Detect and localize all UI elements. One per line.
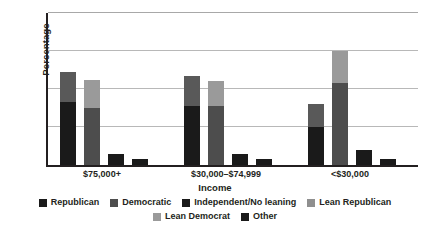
bar-segment-lean [84,80,100,109]
legend-swatch-icon [241,213,249,221]
legend-item[interactable]: Lean Republican [307,198,391,207]
bar [184,76,200,165]
bar [332,51,348,165]
x-group-label: $30,000–$74,999 [191,169,261,179]
legend-swatch-icon [39,199,47,207]
x-axis-baseline [46,165,418,167]
bar [108,154,124,165]
bar [356,150,372,165]
bar-group [172,13,296,165]
bars-layer [48,13,418,165]
bar-segment-base [232,154,248,165]
bar-segment-base [308,127,324,165]
bar-segment-lean [332,51,348,83]
legend-swatch-icon [153,213,161,221]
bar [232,154,248,165]
bar-segment-base [332,83,348,165]
legend-item[interactable]: Independent/No leaning [182,198,296,207]
bar-segment-base [356,150,372,165]
legend-item[interactable]: Republican [39,198,100,207]
bar-segment-lean [184,76,200,106]
bar-segment-lean [308,104,324,127]
bar-segment-base [108,154,124,165]
bar-segment-base [60,102,76,165]
legend-label: Republican [51,198,100,207]
legend-item[interactable]: Lean Democrat [153,212,230,221]
bar [84,80,100,166]
bar-segment-lean [60,72,76,102]
bar-group [48,13,172,165]
legend-item[interactable]: Democratic [110,198,171,207]
income-party-affiliation-chart: Percentage 020406080 $75,000+$30,000–$74… [0,0,430,247]
bar [308,104,324,165]
bar-group [296,13,420,165]
legend-row-1: RepublicanDemocraticIndependent/No leani… [0,198,430,207]
chart-legend: RepublicanDemocraticIndependent/No leani… [0,198,430,221]
legend-label: Lean Democrat [165,212,230,221]
legend-swatch-icon [182,199,190,207]
legend-label: Independent/No leaning [194,198,296,207]
legend-label: Democratic [122,198,171,207]
bar-segment-base [208,106,224,165]
legend-item[interactable]: Other [241,212,277,221]
plot-area [46,13,418,165]
bar-segment-lean [208,81,224,106]
legend-label: Lean Republican [319,198,391,207]
bar-segment-base [184,106,200,165]
x-group-label: <$30,000 [331,169,369,179]
legend-swatch-icon [307,199,315,207]
x-axis-title: Income [0,182,430,193]
x-group-label: $75,000+ [83,169,121,179]
legend-swatch-icon [110,199,118,207]
bar [60,72,76,165]
legend-label: Other [253,212,277,221]
bar-segment-base [84,108,100,165]
bar [208,81,224,165]
legend-row-2: Lean DemocratOther [0,212,430,221]
